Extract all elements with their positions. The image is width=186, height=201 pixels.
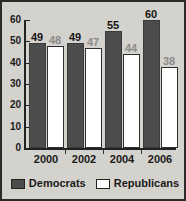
bar-democrats-2004: 55 (105, 31, 122, 148)
bar-republicans-2006: 38 (161, 67, 178, 148)
legend-label: Democrats (29, 178, 86, 189)
chart-legend: DemocratsRepublicans (2, 178, 186, 189)
bar-value-label: 49 (31, 32, 43, 43)
plot-area: 0102030405060 4948494755446038 (24, 20, 176, 150)
y-axis-tick-label: 20 (10, 100, 21, 110)
bar-value-label: 49 (69, 32, 81, 43)
bar-democrats-2002: 49 (67, 43, 84, 148)
y-axis-tick-label: 30 (10, 79, 21, 89)
y-axis-tick-label: 0 (15, 143, 21, 153)
bar-republicans-2002: 47 (85, 48, 102, 148)
y-axis-tick-label: 40 (10, 58, 21, 68)
y-axis-tick-label: 50 (10, 36, 21, 46)
legend-swatch-icon (96, 179, 110, 189)
y-axis-tick-label: 10 (10, 122, 21, 132)
legend-entry-democrats: Democrats (11, 178, 86, 189)
bar-republicans-2000: 48 (47, 46, 64, 148)
y-axis-line (24, 20, 26, 150)
legend-swatch-icon (11, 179, 25, 189)
bar-value-label: 48 (49, 35, 61, 46)
legend-label: Republicans (114, 178, 179, 189)
bar-value-label: 44 (125, 43, 137, 54)
x-axis-category-label: 2002 (72, 152, 96, 166)
bar-democrats-2006: 60 (143, 20, 160, 148)
x-axis-line (24, 148, 176, 150)
bar-republicans-2004: 44 (123, 54, 140, 148)
x-axis-category-label: 2000 (34, 152, 58, 166)
y-axis-tick-mark (26, 148, 30, 149)
x-axis-category-label: 2006 (148, 152, 172, 166)
y-axis-tick-mark (26, 41, 30, 42)
bar-democrats-2000: 49 (29, 43, 46, 148)
bar-value-label: 60 (145, 9, 157, 20)
y-axis-tick-mark (26, 20, 30, 21)
x-axis-category-label: 2004 (110, 152, 134, 166)
x-axis-category-labels: 2000200220042006 (24, 152, 176, 168)
bar-value-label: 55 (107, 20, 119, 31)
y-axis-tick-label: 60 (10, 15, 21, 25)
bar-value-label: 47 (87, 37, 99, 48)
legend-entry-republicans: Republicans (96, 178, 179, 189)
bar-chart-figure: 0102030405060 4948494755446038 200020022… (0, 0, 186, 201)
bar-value-label: 38 (163, 56, 175, 67)
